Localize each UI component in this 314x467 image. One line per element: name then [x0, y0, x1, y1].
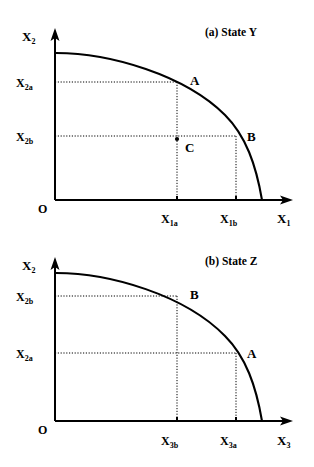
y-axis-label-a: X2 [22, 29, 35, 46]
x-tick-label-x3a: X3a [220, 434, 237, 450]
x-axis-b [55, 417, 293, 426]
frontier-curve-b [56, 273, 262, 421]
x-tick-label-x1b: X1b [220, 212, 238, 228]
x-axis-label-b: X3 [277, 433, 290, 450]
chart-panel-state-z: (b) State Z X2 X3 O [0, 233, 314, 467]
point-label-a-C: C [185, 140, 194, 155]
point-marker-c [175, 137, 179, 141]
x-tick-label-x1a: X1a [161, 212, 178, 228]
y-tick-label-b-x2a: X2a [16, 347, 33, 363]
x-tick-label-x3b: X3b [161, 434, 179, 450]
x-axis-label-a: X1 [277, 211, 290, 228]
point-label-a-B: B [247, 129, 256, 144]
point-label-b-B: B [190, 287, 199, 302]
point-label-a-A: A [190, 73, 200, 88]
y-axis-label-b: X2 [22, 258, 35, 275]
y-tick-label-x2a: X2a [16, 76, 33, 92]
frontier-curve-a [56, 53, 262, 200]
y-tick-label-b-x2b: X2b [16, 290, 34, 306]
y-axis-b [51, 257, 60, 421]
origin-label-a: O [38, 202, 47, 216]
origin-label-b: O [38, 423, 47, 437]
panel-title-a: (a) State Y [205, 26, 258, 39]
x-axis-a [55, 196, 293, 205]
chart-panel-state-y: (a) State Y X2 X1 O [0, 0, 314, 234]
point-label-b-A: A [247, 346, 257, 361]
panel-title-b: (b) State Z [205, 255, 258, 268]
y-tick-label-x2b: X2b [16, 130, 34, 146]
